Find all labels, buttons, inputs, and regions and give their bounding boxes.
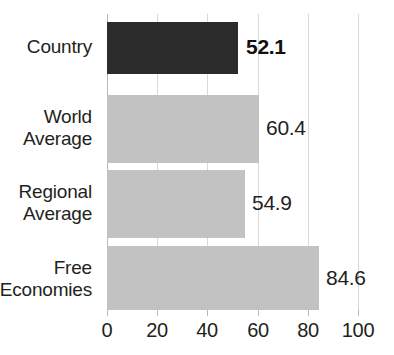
x-tick-mark-80	[308, 310, 309, 316]
x-tick-label-60: 60	[247, 318, 269, 342]
bar-country	[107, 22, 238, 74]
x-tick-mark-60	[258, 310, 259, 316]
value-label-world-average: 60.4	[266, 117, 306, 139]
bar-free-economies	[107, 246, 319, 310]
bar-chart: Country World Average Regional Average F…	[0, 0, 394, 355]
x-tick-mark-40	[207, 310, 208, 316]
category-label-country: Country	[27, 36, 92, 58]
bar-world-average	[107, 95, 259, 163]
x-tick-mark-0	[107, 310, 108, 316]
x-tick-label-0: 0	[102, 318, 113, 342]
category-label-world-average: World Average	[23, 106, 92, 150]
x-tick-label-40: 40	[196, 318, 218, 342]
value-label-regional-average: 54.9	[252, 192, 292, 214]
value-label-free-economies: 84.6	[326, 267, 366, 289]
value-label-country: 52.1	[246, 36, 286, 58]
x-tick-label-20: 20	[146, 318, 168, 342]
x-tick-label-80: 80	[297, 318, 319, 342]
x-tick-label-100: 100	[342, 318, 374, 342]
category-label-free-economies: Free Economies	[0, 257, 92, 301]
x-tick-mark-100	[358, 310, 359, 316]
x-axis: 0 20 40 60 80 100	[107, 310, 358, 350]
category-label-regional-average: Regional Average	[19, 181, 92, 225]
bar-regional-average	[107, 170, 245, 238]
plot-area	[107, 14, 358, 310]
x-tick-mark-20	[157, 310, 158, 316]
